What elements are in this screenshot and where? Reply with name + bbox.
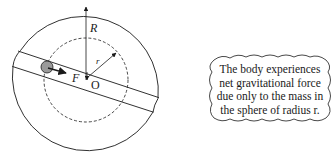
body-ball [41,61,53,73]
callout-line: due only to the mass in [212,90,328,104]
callout-line: the sphere of radius r. [212,104,328,118]
callout-line: net gravitational force [212,77,328,91]
label-R: R [89,21,98,35]
label-r: r [96,56,100,66]
radius-r-arrow [88,53,116,77]
outer-sphere [12,16,158,150]
callout-text: The body experiences net gravitational f… [212,63,328,117]
tunnel [11,51,160,113]
label-F: F [71,71,80,85]
label-O: O [91,78,100,92]
callout-line: The body experiences [212,63,328,77]
